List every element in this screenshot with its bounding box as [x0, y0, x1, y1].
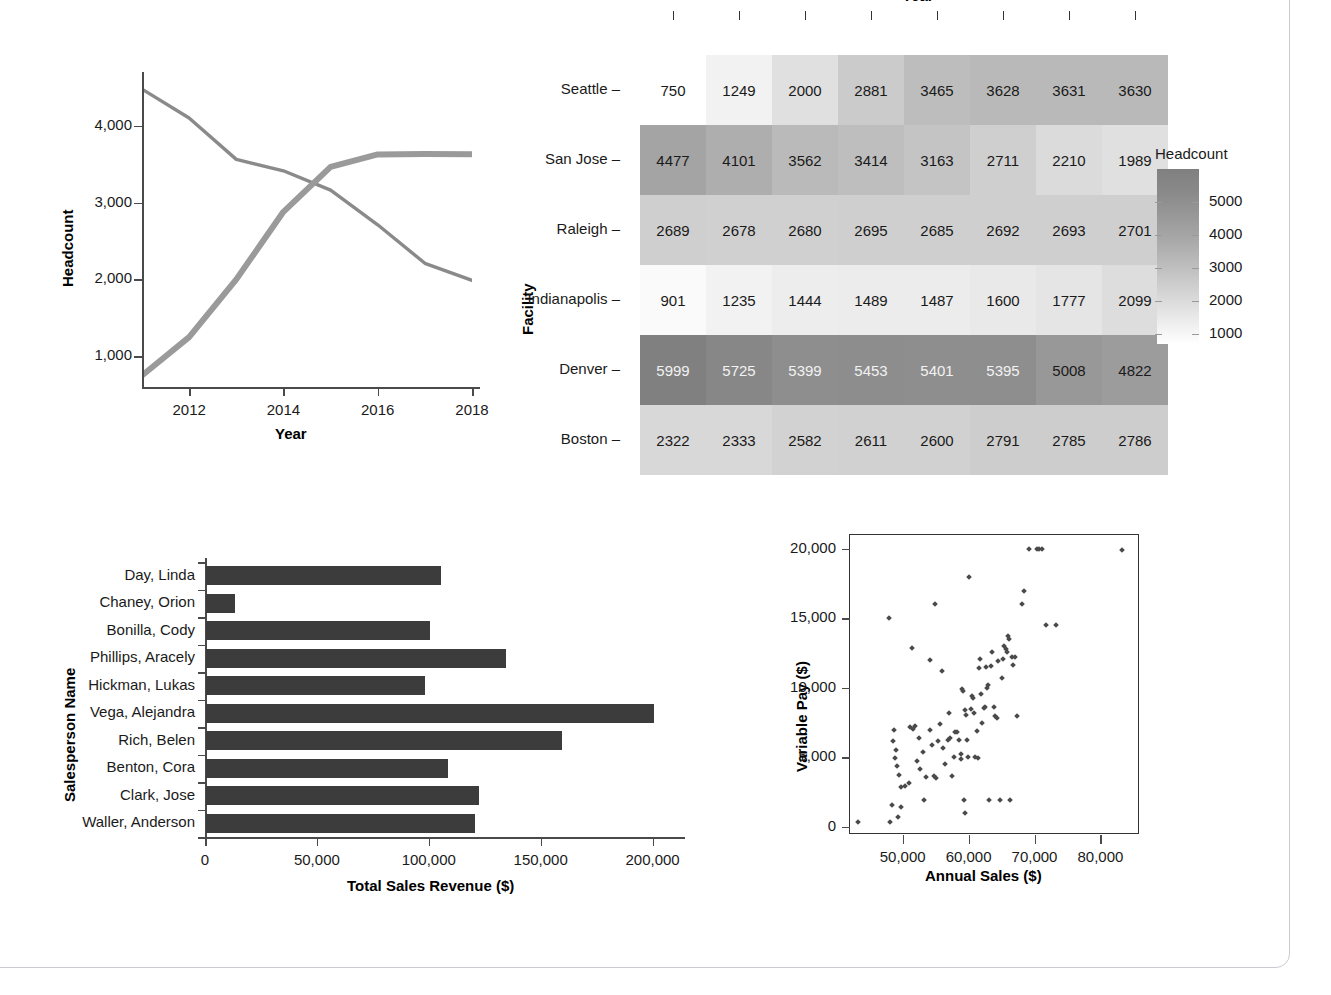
- heatmap-cell: 901: [640, 265, 706, 335]
- scatter-point: [1040, 546, 1046, 552]
- scatter-point: [999, 675, 1005, 681]
- scatter-y-tick-label: 10,000: [758, 678, 836, 695]
- heatmap-cell: 2785: [1036, 405, 1102, 475]
- scatter-point: [855, 819, 861, 825]
- heatmap-column-tick: [673, 11, 674, 20]
- bar-chart-x-axis: [205, 837, 685, 839]
- heatmap-column-tick: [1003, 11, 1004, 20]
- heatmap-row-label: Raleigh –: [390, 220, 620, 237]
- scatter-plot-panel: Variable Pay ($) Annual Sales ($) 05,000…: [777, 522, 1207, 912]
- line-chart-y-tick-label: 3,000: [60, 193, 132, 210]
- colorbar-tick: [1155, 235, 1162, 236]
- bar-chart-panel: Salesperson Name Total Sales Revenue ($)…: [47, 552, 707, 912]
- line-chart-panel: Headcount Year 1,0002,0003,0004,00020122…: [47, 62, 517, 482]
- bar-chart-bar: [206, 759, 448, 778]
- heatmap-column-tick: [871, 11, 872, 20]
- heatmap-cell: 3562: [772, 125, 838, 195]
- colorbar-tick: [1192, 235, 1199, 236]
- line-chart-x-tick: [283, 387, 285, 396]
- scatter-point: [916, 736, 922, 742]
- colorbar-tick: [1192, 334, 1199, 335]
- heatmap-cell: 2689: [640, 195, 706, 265]
- bar-chart-y-tick: [198, 810, 205, 812]
- colorbar-title: Headcount: [1155, 145, 1228, 162]
- heatmap-column-header: 2012: [706, 0, 772, 2]
- bar-chart-y-tick: [198, 562, 205, 564]
- bar-chart-category-label: Chaney, Orion: [47, 593, 195, 610]
- scatter-x-tick: [1100, 835, 1102, 844]
- scatter-point: [959, 756, 965, 762]
- line-chart-x-tick: [472, 387, 474, 396]
- colorbar-tick-label: 1000: [1209, 324, 1242, 341]
- heatmap-row-label: Denver –: [390, 360, 620, 377]
- scatter-point: [1007, 797, 1013, 803]
- bar-chart-category-label: Hickman, Lukas: [47, 676, 195, 693]
- scatter-y-tick-label: 0: [758, 817, 836, 834]
- heatmap-cell: 2692: [970, 195, 1036, 265]
- line-chart-x-tick-label: 2014: [257, 401, 309, 418]
- scatter-y-tick: [842, 757, 850, 759]
- scatter-y-tick: [842, 688, 850, 690]
- bar-chart-x-tick: [317, 837, 319, 846]
- scatter-point: [893, 747, 899, 753]
- bar-chart-y-tick: [198, 590, 205, 592]
- bar-chart-y-tick: [198, 782, 205, 784]
- bar-chart-bar: [206, 704, 654, 723]
- scatter-point: [963, 712, 969, 718]
- scatter-x-axis-title: Annual Sales ($): [925, 867, 1042, 884]
- heatmap-cell: 1600: [970, 265, 1036, 335]
- bar-chart-bar: [206, 814, 475, 833]
- heatmap-cell: 2680: [772, 195, 838, 265]
- dashboard-frame: Headcount Year 1,0002,0003,0004,00020122…: [0, 0, 1290, 968]
- scatter-point: [940, 745, 946, 751]
- scatter-point: [988, 663, 994, 669]
- scatter-point: [930, 742, 936, 748]
- scatter-point: [912, 723, 918, 729]
- scatter-point: [927, 657, 933, 663]
- scatter-x-tick: [903, 835, 905, 844]
- scatter-point: [887, 819, 893, 825]
- scatter-point: [1011, 662, 1017, 668]
- scatter-point: [1044, 622, 1050, 628]
- heatmap-cell: 2210: [1036, 125, 1102, 195]
- heatmap-column-header: 2016: [970, 0, 1036, 2]
- scatter-y-tick-label: 15,000: [758, 608, 836, 625]
- bar-chart-y-tick: [198, 837, 205, 839]
- colorbar-tick-label: 2000: [1209, 291, 1242, 308]
- heatmap-cell: 2711: [970, 125, 1036, 195]
- bar-chart-bar: [206, 621, 430, 640]
- heatmap-cell: 2582: [772, 405, 838, 475]
- line-chart-y-axis: [142, 72, 144, 387]
- scatter-point: [937, 721, 943, 727]
- heatmap-cell: 5395: [970, 335, 1036, 405]
- bar-chart-x-tick-label: 0: [160, 851, 250, 868]
- scatter-point: [1015, 713, 1021, 719]
- bar-chart-x-tick-label: 100,000: [384, 851, 474, 868]
- heatmap-cell: 2600: [904, 405, 970, 475]
- colorbar-tick: [1155, 301, 1162, 302]
- scatter-point: [949, 773, 955, 779]
- heatmap-column-header: 2013: [772, 0, 838, 2]
- scatter-point: [917, 766, 923, 772]
- scatter-point: [924, 774, 930, 780]
- bar-chart-bar: [206, 731, 562, 750]
- colorbar-tick: [1192, 301, 1199, 302]
- colorbar-tick-label: 4000: [1209, 225, 1242, 242]
- heatmap-cell: 1777: [1036, 265, 1102, 335]
- line-chart-y-tick: [134, 203, 142, 205]
- scatter-y-tick-label: 20,000: [758, 539, 836, 556]
- scatter-point: [1026, 546, 1032, 552]
- line-chart-x-axis: [142, 387, 480, 389]
- heatmap-cell: 5999: [640, 335, 706, 405]
- heatmap-cell: 4101: [706, 125, 772, 195]
- bar-chart-y-tick: [198, 755, 205, 757]
- scatter-point: [1000, 656, 1006, 662]
- scatter-point: [946, 711, 952, 717]
- heatmap-cell: 2695: [838, 195, 904, 265]
- bar-chart-x-tick-label: 150,000: [496, 851, 586, 868]
- scatter-point: [971, 710, 977, 716]
- scatter-y-tick: [842, 618, 850, 620]
- bar-chart-category-label: Rich, Belen: [47, 731, 195, 748]
- bar-chart-category-label: Bonilla, Cody: [47, 621, 195, 638]
- line-series-seattle: [142, 154, 472, 375]
